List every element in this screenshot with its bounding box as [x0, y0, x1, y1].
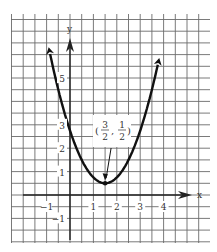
svg-text:(: ( — [95, 125, 99, 136]
x-tick-label: 4 — [161, 202, 167, 212]
y-tick-label: 5 — [59, 74, 65, 84]
svg-text:3: 3 — [102, 120, 108, 130]
svg-text:2: 2 — [119, 132, 125, 142]
y-tick-label: 3 — [59, 121, 65, 131]
y-tick-label: 1 — [59, 168, 65, 178]
svg-text:2: 2 — [102, 132, 108, 142]
x-tick-label: 2 — [114, 202, 120, 212]
svg-text:,: , — [111, 125, 114, 136]
y-axis-label: y — [66, 24, 73, 34]
x-tick-label: 3 — [137, 202, 143, 212]
x-axis-label: x — [197, 190, 202, 200]
y-tick-label: −1 — [52, 214, 65, 224]
svg-text:1: 1 — [119, 120, 125, 130]
y-tick-label: 2 — [59, 144, 65, 154]
x-tick-label: −1 — [40, 202, 53, 212]
x-tick-label: 1 — [91, 202, 97, 212]
vertex-annotation: (32,12) — [93, 115, 131, 186]
svg-text:): ) — [127, 125, 131, 136]
graph-figure: xy −11234−11235 (32,12) — [0, 0, 217, 252]
